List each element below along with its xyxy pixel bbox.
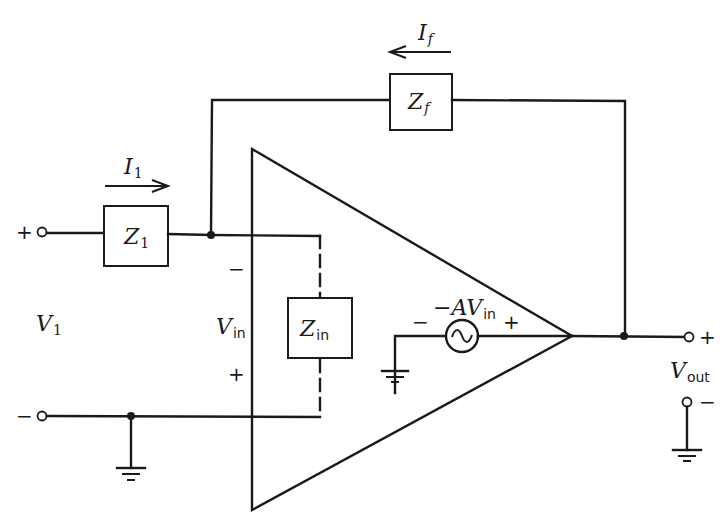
i1-arrow-icon [105, 180, 168, 192]
vin-label: Vin [216, 316, 246, 340]
z1-label: Z1 [124, 226, 149, 250]
ground-icon [117, 468, 145, 480]
source-plus-sign: + [503, 312, 520, 332]
vin-minus-sign: − [228, 259, 245, 279]
output-node [620, 332, 628, 340]
if-label: If [418, 22, 433, 46]
zf-label: Zf [408, 91, 429, 115]
output-minus-terminal [683, 398, 692, 407]
vout-label: Vout [670, 360, 710, 384]
output-plus-sign: + [699, 327, 716, 347]
input-plus-sign: + [16, 222, 33, 242]
opamp-circuit-diagram: + − Z1 Zf Zin I1 If V1 Vin Vout − + −AVi… [0, 0, 725, 523]
source-label: −AVin [433, 297, 496, 321]
i1-label: I1 [124, 156, 143, 180]
vin-plus-sign: + [228, 364, 245, 384]
output-ground-icon [673, 450, 701, 461]
zin-label: Zin [300, 318, 329, 342]
circuit-schematic [0, 0, 725, 523]
source-minus-sign: − [412, 312, 429, 332]
v1-label: V1 [36, 313, 62, 337]
output-minus-sign: − [699, 392, 716, 412]
input-minus-terminal [38, 412, 47, 421]
input-plus-terminal [38, 228, 47, 237]
input-minus-sign: − [16, 406, 33, 426]
if-arrow-icon [390, 46, 451, 58]
output-plus-terminal [685, 333, 694, 342]
